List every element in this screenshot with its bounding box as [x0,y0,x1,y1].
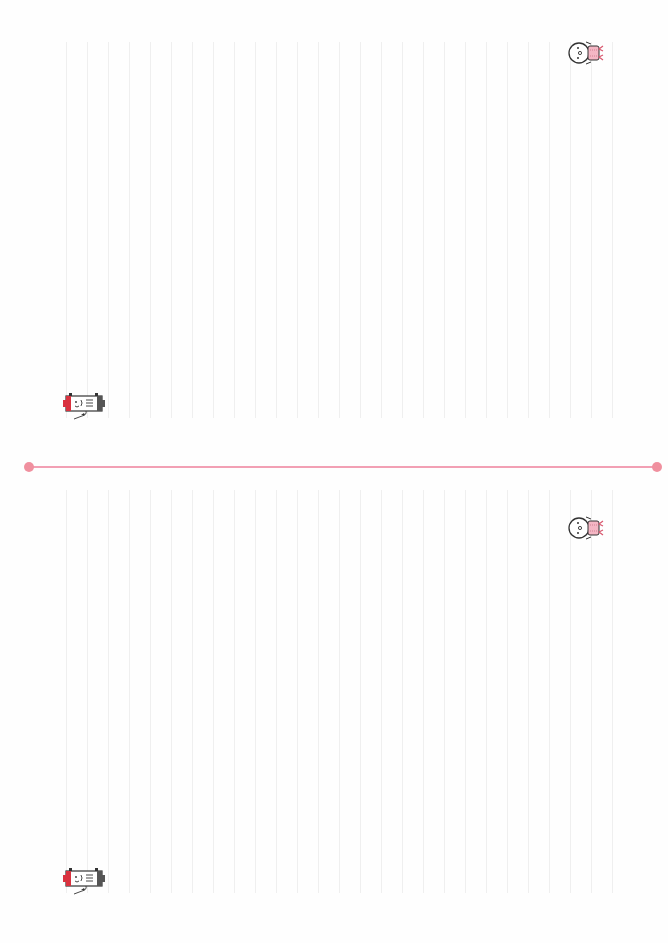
snowman-character-icon [566,38,610,68]
snowman-character-icon [566,513,610,543]
battery-character-icon [60,865,108,897]
writing-lines-bottom [66,490,624,893]
divider-endpoint-right [652,462,662,472]
section-divider-line [29,466,657,468]
lined-paper-page [0,0,668,943]
divider-endpoint-left [24,462,34,472]
battery-character-icon [60,390,108,422]
writing-lines-top [66,42,624,418]
